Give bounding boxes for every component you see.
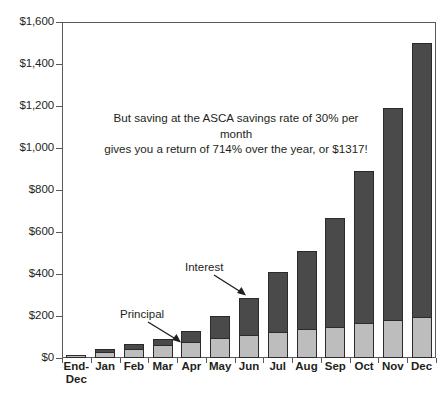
x-axis-category-label: Oct <box>351 360 377 402</box>
x-axis-tick-mark <box>148 358 149 363</box>
x-axis-category-label: May <box>207 360 233 402</box>
x-axis-category-label: Mar <box>150 360 176 402</box>
y-axis-tick-mark <box>56 148 62 149</box>
x-axis-category-label: Nov <box>380 360 406 402</box>
x-axis-tick-mark <box>292 358 293 363</box>
y-axis-tick-mark <box>56 22 62 23</box>
x-axis-tick-mark <box>321 358 322 363</box>
y-axis-tick-mark <box>56 64 62 65</box>
x-axis-tick-mark <box>206 358 207 363</box>
y-axis-tick-mark <box>56 274 62 275</box>
y-axis-tick-mark <box>56 316 62 317</box>
x-axis-tick-mark <box>378 358 379 363</box>
x-axis-category-label: Dec <box>409 360 435 402</box>
x-axis-tick-mark <box>436 358 437 363</box>
x-axis-tick-mark <box>62 358 63 363</box>
x-axis-category-label: Jul <box>265 360 291 402</box>
x-axis-category-label: Sep <box>322 360 348 402</box>
x-axis-category-label: Jun <box>236 360 262 402</box>
savings-growth-chart: $0$200$400$600$800$1,000$1,200$1,400$1,6… <box>0 0 446 402</box>
x-axis-tick-mark <box>235 358 236 363</box>
x-axis-tick-mark <box>263 358 264 363</box>
x-axis-tick-mark <box>350 358 351 363</box>
x-axis-tick-mark <box>407 358 408 363</box>
interest-callout-arrow <box>0 0 446 402</box>
x-axis-category-label: Jan <box>92 360 118 402</box>
y-axis-tick-mark <box>56 232 62 233</box>
x-axis-category-label: Aug <box>294 360 320 402</box>
y-axis-tick-mark <box>56 190 62 191</box>
x-axis-tick-mark <box>177 358 178 363</box>
x-axis-tick-mark <box>120 358 121 363</box>
x-axis: End- DecJanFebMarAprMayJunJulAugSepOctNo… <box>62 360 436 402</box>
x-axis-category-label: Apr <box>178 360 204 402</box>
x-axis-category-label: End- Dec <box>63 360 89 402</box>
x-axis-category-label: Feb <box>121 360 147 402</box>
y-axis-tick-mark <box>56 106 62 107</box>
x-axis-tick-mark <box>91 358 92 363</box>
